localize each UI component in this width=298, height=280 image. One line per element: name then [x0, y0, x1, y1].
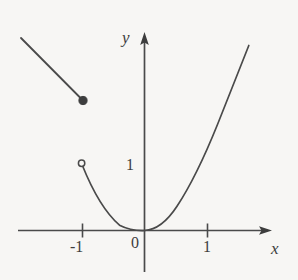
origin-label: 0 — [131, 235, 139, 251]
open-circle-endpoint-marker — [78, 160, 84, 166]
line-segment — [21, 38, 82, 100]
graph-figure: y x 1 0 -1 1 — [0, 0, 298, 280]
parabola-curve — [82, 46, 249, 231]
graph-canvas — [0, 0, 298, 280]
x-tick-label-negative-one: -1 — [70, 239, 83, 255]
x-tick-label-one: 1 — [203, 239, 211, 255]
y-axis-label: y — [122, 29, 130, 46]
x-axis-label: x — [271, 240, 279, 257]
y-tick-label-one: 1 — [126, 157, 134, 173]
filled-dot-endpoint-marker — [79, 96, 87, 104]
